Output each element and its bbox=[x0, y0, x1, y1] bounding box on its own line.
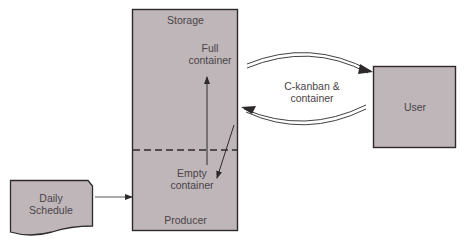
daily-schedule-line2: Schedule bbox=[10, 204, 92, 216]
empty-container-line1: Empty bbox=[162, 167, 222, 179]
user-label: User bbox=[374, 101, 456, 113]
full-container-line1: Full bbox=[180, 42, 240, 54]
daily-schedule-label: Daily Schedule bbox=[10, 192, 92, 216]
kanban-to-storage-arrow bbox=[241, 105, 366, 125]
kanban-to-user-arrow bbox=[247, 53, 373, 74]
producer-label: Producer bbox=[133, 214, 238, 226]
flow-label: C-kanban & container bbox=[272, 80, 352, 104]
flow-label-line1: C-kanban & bbox=[272, 80, 352, 92]
c-kanban-diagram: Storage Full container Empty container P… bbox=[0, 0, 465, 244]
daily-schedule-line1: Daily bbox=[10, 192, 92, 204]
full-container-line2: container bbox=[180, 54, 240, 66]
empty-container-label: Empty container bbox=[162, 167, 222, 191]
empty-container-line2: container bbox=[162, 179, 222, 191]
full-container-label: Full container bbox=[180, 42, 240, 66]
flow-label-line2: container bbox=[272, 92, 352, 104]
storage-label: Storage bbox=[133, 14, 238, 26]
